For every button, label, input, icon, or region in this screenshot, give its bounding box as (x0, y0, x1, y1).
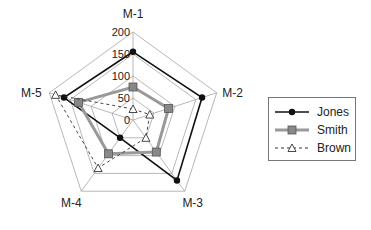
data-point (94, 164, 102, 172)
axis-label: M-1 (123, 7, 144, 21)
data-point (61, 94, 67, 100)
data-point (146, 111, 154, 119)
data-point (174, 177, 180, 183)
data-point (75, 98, 83, 106)
data-point (152, 148, 160, 156)
legend-item-brown: Brown (275, 139, 351, 157)
legend-item-smith: Smith (275, 121, 348, 139)
axis-label: M-2 (222, 86, 243, 100)
data-point (199, 94, 205, 100)
tick-label: 150 (112, 48, 130, 60)
legend-label: Smith (317, 123, 348, 137)
legend-item-jones: Jones (275, 103, 349, 121)
tick-label: 50 (118, 92, 130, 104)
series-brown-line (56, 95, 150, 168)
data-point (117, 135, 123, 141)
legend-brown-line-icon (275, 142, 309, 154)
legend-label: Jones (317, 105, 349, 119)
tick-label: 200 (112, 26, 130, 38)
tick-label: 100 (112, 70, 130, 82)
chart-legend: Jones Smith Brown (268, 97, 356, 161)
legend-smith-line-icon (275, 124, 309, 136)
data-point (52, 91, 60, 99)
legend-label: Brown (317, 141, 351, 155)
data-point (104, 150, 112, 158)
data-point (129, 83, 137, 91)
axis-label: M-5 (21, 86, 42, 100)
legend-jones-line-icon (275, 106, 309, 118)
data-point (130, 49, 136, 55)
axis-label: M-3 (182, 196, 203, 210)
axis-label: M-4 (61, 196, 82, 210)
data-point (165, 104, 173, 112)
tick-label: 0 (124, 114, 130, 126)
